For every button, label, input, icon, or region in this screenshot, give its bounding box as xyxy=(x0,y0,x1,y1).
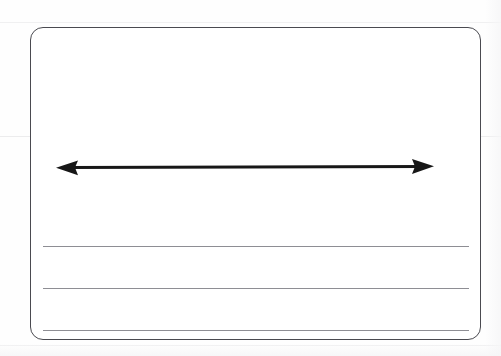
arrow-head-right-icon xyxy=(412,159,434,174)
scan-fold-line-bottom xyxy=(0,345,501,346)
arrow-svg xyxy=(50,150,442,186)
arrow-head-left-icon xyxy=(56,161,78,176)
arrow-shaft xyxy=(70,167,426,168)
writing-line-1 xyxy=(43,246,469,247)
writing-line-3 xyxy=(43,330,469,331)
writing-line-2 xyxy=(43,288,469,289)
paper-shading-bottom xyxy=(0,344,501,356)
double-headed-arrow xyxy=(50,150,442,186)
scan-fold-line-top xyxy=(0,22,501,23)
paper-shading-right xyxy=(485,0,501,356)
scanned-page xyxy=(0,0,501,356)
